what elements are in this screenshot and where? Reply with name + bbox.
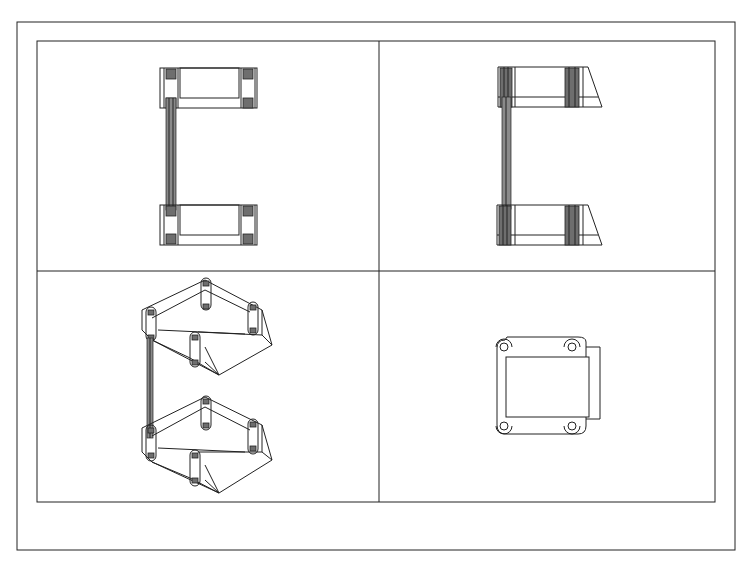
drawing-canvas	[0, 0, 754, 566]
cad-drawing-sheet	[0, 0, 754, 566]
viewport-top-view[interactable]	[496, 337, 600, 434]
viewport-side-view[interactable]	[497, 67, 602, 245]
outer-border	[17, 22, 735, 550]
viewport-isometric-view[interactable]	[142, 278, 272, 493]
viewport-front-view[interactable]	[160, 68, 257, 245]
